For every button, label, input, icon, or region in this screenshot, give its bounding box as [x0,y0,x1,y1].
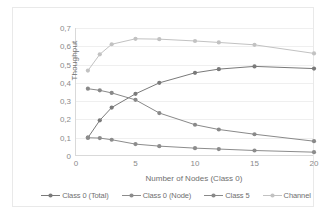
chart-legend: Class 0 (Total)Class 0 (Node)Class 5Chan… [25,191,326,200]
data-point-marker [312,150,316,154]
data-point-marker [217,127,221,131]
data-point-marker [312,51,316,55]
data-point-marker [217,67,221,71]
legend-item-label: Class 0 (Node) [143,191,192,200]
data-point-marker [252,132,256,136]
y-tick-label: 0,5 [60,60,71,69]
x-tick-label: 10 [191,159,200,168]
x-axis-title: Number of Nodes (Class 0) [75,174,313,183]
data-point-marker [252,43,256,47]
x-tick-label: 15 [250,159,259,168]
plot-area: Thoughput 00,10,20,30,40,50,60,705101520 [75,28,313,156]
data-point-marker [98,136,102,140]
legend-item[interactable]: Class 0 (Node) [122,191,192,200]
series-line [88,138,314,152]
data-point-marker [157,144,161,148]
series-class-5 [86,87,316,144]
legend-item-label: Class 0 (Total) [62,191,108,200]
data-point-marker [312,66,316,70]
legend-marker-icon [204,191,223,200]
data-point-marker [98,88,102,92]
data-point-marker [252,64,256,68]
data-point-marker [133,92,137,96]
y-tick-label: 0,7 [60,24,71,33]
series-line [88,39,314,71]
data-point-marker [110,42,114,46]
chart-frame: Thoughput 00,10,20,30,40,50,60,705101520… [12,7,314,207]
series-line [88,89,314,141]
data-point-marker [133,142,137,146]
data-point-marker [98,118,102,122]
legend-marker-icon [263,191,282,200]
data-point-marker [193,146,197,150]
chart-figure: Thoughput 00,10,20,30,40,50,60,705101520… [0,0,326,217]
data-point-marker [110,105,114,109]
y-tick-label: 0,3 [60,97,71,106]
chart-series-svg [76,28,314,156]
data-point-marker [133,37,137,41]
data-point-marker [193,123,197,127]
y-tick-label: 0 [67,152,71,161]
x-tick-label: 20 [310,159,319,168]
legend-item[interactable]: Class 5 [204,191,249,200]
y-tick-label: 0,6 [60,42,71,51]
data-point-marker [193,71,197,75]
data-point-marker [217,40,221,44]
series-class-0-node [86,136,316,155]
data-point-marker [312,139,316,143]
y-tick-label: 0,1 [60,133,71,142]
data-point-marker [157,111,161,115]
legend-marker-icon [41,191,60,200]
y-tick-label: 0,4 [60,78,71,87]
legend-item-label: Channel [284,191,311,200]
series-line [88,66,314,137]
data-point-marker [217,147,221,151]
data-point-marker [98,52,102,56]
series-class-0-total [86,64,316,140]
data-point-marker [86,136,90,140]
legend-item-label: Class 5 [225,191,249,200]
legend-marker-icon [122,191,141,200]
y-tick-label: 0,2 [60,115,71,124]
x-tick-label: 0 [74,159,78,168]
data-point-marker [110,91,114,95]
legend-item[interactable]: Class 0 (Total) [41,191,108,200]
data-point-marker [157,81,161,85]
data-point-marker [110,138,114,142]
data-point-marker [193,39,197,43]
data-point-marker [252,148,256,152]
data-point-marker [133,98,137,102]
data-point-marker [157,37,161,41]
data-point-marker [86,69,90,73]
x-tick-label: 5 [133,159,137,168]
legend-item[interactable]: Channel [263,191,311,200]
data-point-marker [86,87,90,91]
